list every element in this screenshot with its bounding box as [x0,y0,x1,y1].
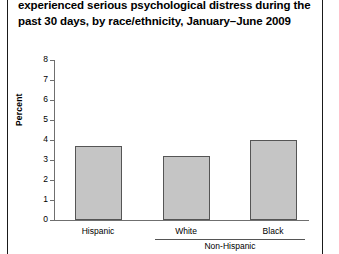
y-axis-tick-mark [50,220,54,221]
group-bracket-label: Non-Hispanic [155,241,305,252]
y-axis-tick-mark [50,140,54,141]
x-axis-line [54,220,309,221]
y-axis-tick-label: 3 [34,154,48,165]
y-axis-tick: 0 [54,220,55,221]
group-bracket-rule [155,239,305,240]
y-axis-tick-label: 6 [34,94,48,105]
page-rule-right [322,0,323,254]
bar [250,140,297,220]
chart-title: experienced serious psychological distre… [18,0,314,29]
y-axis-tick-mark [50,120,54,121]
y-axis-tick-label: 5 [34,114,48,125]
chart-figure: experienced serious psychological distre… [0,0,339,254]
y-axis-tick-mark [50,200,54,201]
x-axis-category-label: Black [228,226,318,237]
y-axis-tick-mark [50,180,54,181]
y-axis-tick-label: 8 [34,54,48,65]
y-axis-label: Percent [14,112,24,126]
y-axis-tick: 1 [54,200,55,201]
y-axis-tick: 7 [54,80,55,81]
plot-area: 012345678 [54,60,309,220]
y-axis-tick: 6 [54,100,55,101]
x-axis-category-label: White [141,226,231,237]
y-axis-tick-label: 7 [34,74,48,85]
y-axis-tick-mark [50,100,54,101]
y-axis-tick-label: 1 [34,194,48,205]
x-axis-category-label: Hispanic [53,226,143,237]
y-axis-tick: 5 [54,120,55,121]
y-axis-tick-mark [50,160,54,161]
y-axis-tick-mark [50,80,54,81]
y-axis-tick: 3 [54,160,55,161]
bar [75,146,122,220]
page-rule-left [7,0,8,254]
bar [163,156,210,220]
y-axis-tick: 2 [54,180,55,181]
y-axis-tick-label: 4 [34,134,48,145]
y-axis-tick: 4 [54,140,55,141]
y-axis-tick-label: 0 [34,214,48,225]
y-axis-tick: 8 [54,60,55,61]
y-axis-tick-mark [50,60,54,61]
y-axis-tick-label: 2 [34,174,48,185]
